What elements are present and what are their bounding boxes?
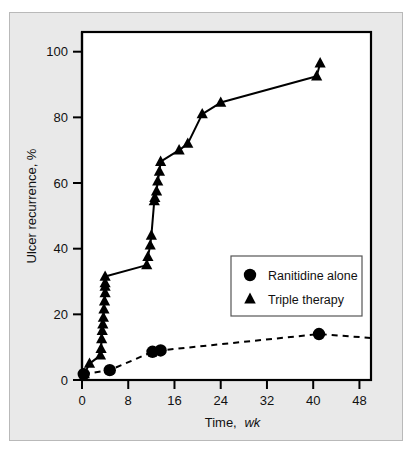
circle-marker bbox=[104, 364, 116, 376]
figure-inner: 020406080100 081624324048 Ranitidine alo… bbox=[10, 13, 402, 440]
circle-marker bbox=[313, 328, 325, 340]
legend-label: Triple therapy bbox=[268, 293, 345, 307]
y-axis-title: Ulcer recurrence, % bbox=[24, 148, 39, 263]
x-tick-label: 24 bbox=[213, 393, 227, 408]
legend-box bbox=[231, 256, 362, 316]
y-tick-label: 100 bbox=[46, 44, 68, 59]
y-tick-label: 60 bbox=[54, 176, 68, 191]
x-tick-label: 8 bbox=[125, 393, 132, 408]
x-tick-label: 32 bbox=[260, 393, 274, 408]
plot-area bbox=[82, 32, 371, 380]
circle-marker bbox=[154, 344, 166, 356]
figure-panel: 020406080100 081624324048 Ranitidine alo… bbox=[9, 12, 403, 441]
y-tick-label: 0 bbox=[61, 373, 68, 388]
y-tick-label: 20 bbox=[54, 307, 68, 322]
chart-legend: Ranitidine aloneTriple therapy bbox=[231, 256, 362, 316]
y-axis-ticks: 020406080100 bbox=[46, 44, 82, 387]
x-tick-label: 48 bbox=[352, 393, 366, 408]
x-tick-label: 40 bbox=[306, 393, 320, 408]
x-axis-title-main: Time, bbox=[205, 415, 237, 430]
x-tick-label: 0 bbox=[78, 393, 85, 408]
x-axis-title-unit: wk bbox=[244, 415, 261, 430]
ulcer-recurrence-chart: 020406080100 081624324048 Ranitidine alo… bbox=[10, 13, 402, 440]
x-tick-label: 16 bbox=[167, 393, 181, 408]
x-axis-ticks: 081624324048 bbox=[78, 380, 366, 408]
x-axis-title: Time, wk bbox=[205, 415, 262, 430]
y-tick-label: 40 bbox=[54, 241, 68, 256]
legend-label: Ranitidine alone bbox=[268, 269, 358, 283]
y-tick-label: 80 bbox=[54, 110, 68, 125]
legend-circle-marker bbox=[244, 269, 256, 281]
